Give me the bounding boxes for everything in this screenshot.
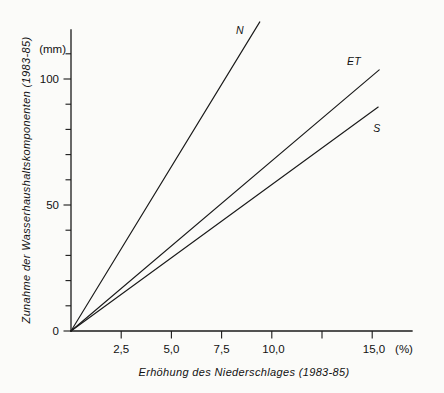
series-label-n: N xyxy=(236,24,244,36)
y-tick-label-50: 50 xyxy=(46,199,59,211)
x-tick-label-5-0: 5,0 xyxy=(163,343,179,355)
chart-svg: 0 50 100 (mm) 2,5 5,0 7,5 10,0 15,0 (%) … xyxy=(0,0,444,393)
series-label-et: ET xyxy=(347,55,362,67)
chart-figure: 0 50 100 (mm) 2,5 5,0 7,5 10,0 15,0 (%) … xyxy=(0,0,444,393)
x-axis-ticks xyxy=(121,331,372,339)
y-axis-title: Zunahme der Wasserhaushaltskomponenten (… xyxy=(20,37,32,325)
series-line-n xyxy=(71,22,260,331)
series-label-s: S xyxy=(373,122,380,134)
x-axis-title: Erhöhung des Niederschlages (1983-85) xyxy=(138,366,349,378)
y-tick-label-100: 100 xyxy=(40,73,59,85)
series-line-et xyxy=(71,70,379,331)
y-axis-ticks xyxy=(64,54,72,331)
y-axis-unit: (mm) xyxy=(39,43,66,55)
x-tick-label-15-0: 15,0 xyxy=(363,343,385,355)
x-tick-label-10-0: 10,0 xyxy=(262,343,284,355)
y-tick-label-0: 0 xyxy=(53,325,59,337)
x-tick-label-7-5: 7,5 xyxy=(214,343,230,355)
series-line-s xyxy=(71,107,378,331)
x-axis-unit: (%) xyxy=(395,343,413,355)
x-tick-label-2-5: 2,5 xyxy=(113,343,129,355)
